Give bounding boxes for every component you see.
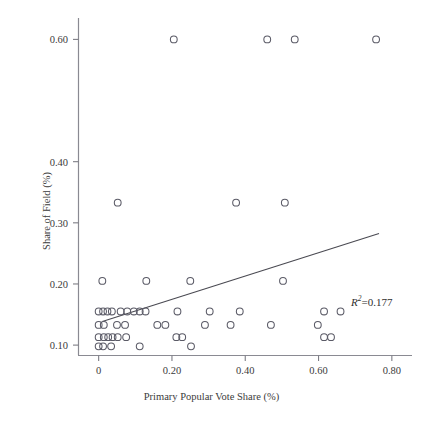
x-axis-tick-label: 0.40 [236, 365, 254, 376]
data-point [114, 334, 121, 341]
data-point [99, 278, 106, 285]
x-axis-tick-label: 0.60 [309, 365, 327, 376]
plot-canvas [0, 0, 423, 421]
data-point [264, 36, 271, 43]
data-point [174, 308, 181, 315]
x-axis-tick-label: 0.20 [163, 365, 181, 376]
data-point [170, 36, 177, 43]
data-point [162, 322, 169, 329]
r-squared-value: =0.177 [361, 296, 392, 308]
data-point [100, 322, 107, 329]
data-point [321, 334, 328, 341]
data-point [314, 322, 321, 329]
data-point [100, 343, 107, 350]
data-point [227, 322, 234, 329]
data-point [202, 322, 209, 329]
x-axis-tick-label: 0.80 [383, 365, 401, 376]
x-axis-title: Primary Popular Vote Share (%) [0, 391, 423, 402]
data-point [154, 322, 161, 329]
data-point [373, 36, 380, 43]
data-point [114, 199, 121, 206]
data-point [206, 308, 213, 315]
r-squared-symbol: R [351, 296, 358, 308]
y-axis-tick-label: 0.10 [30, 340, 68, 351]
r-squared-annotation: R2=0.177 [351, 294, 392, 308]
data-point [108, 308, 115, 315]
y-axis-title: Share of Field (%) [41, 172, 52, 250]
data-point [188, 343, 195, 350]
data-point [268, 322, 275, 329]
data-point [187, 278, 194, 285]
data-point [281, 199, 288, 206]
data-point [108, 343, 115, 350]
y-axis-ticks [73, 39, 79, 345]
data-point [291, 36, 298, 43]
data-point [136, 343, 143, 350]
data-points-group [95, 36, 379, 350]
data-point [236, 308, 243, 315]
data-point [143, 278, 150, 285]
data-point [337, 308, 344, 315]
data-point [321, 308, 328, 315]
data-point [122, 322, 129, 329]
data-point [123, 334, 130, 341]
data-point [114, 322, 121, 329]
x-axis-tick-label: 0 [96, 365, 101, 376]
data-point [117, 308, 124, 315]
y-axis-tick-label: 0.40 [30, 156, 68, 167]
data-point [280, 278, 287, 285]
y-axis-tick-label: 0.60 [30, 34, 68, 45]
scatter-plot-figure: 0.100.200.300.400.60 00.200.400.600.80 S… [0, 0, 423, 421]
x-axis-ticks [99, 356, 392, 362]
data-point [328, 334, 335, 341]
y-axis-tick-label: 0.20 [30, 278, 68, 289]
data-point [233, 199, 240, 206]
